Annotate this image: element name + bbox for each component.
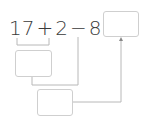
intermediate-box-1[interactable] bbox=[15, 50, 52, 77]
connector-to-answer bbox=[73, 40, 121, 102]
answer-box[interactable] bbox=[103, 11, 139, 37]
bracket-first-step bbox=[17, 38, 49, 45]
arrow-up-icon bbox=[119, 37, 123, 41]
intermediate-box-2[interactable] bbox=[37, 89, 73, 116]
